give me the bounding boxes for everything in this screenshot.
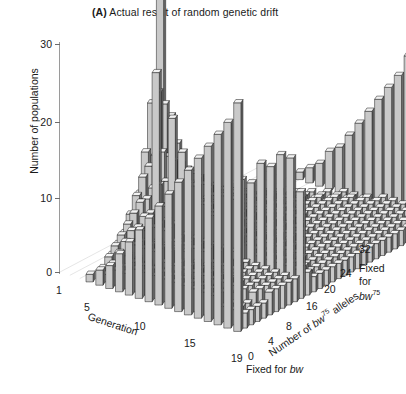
fixed-bw75-sup: 75: [372, 289, 380, 296]
fixed-for-bw75-annotation: Fixed for bw75: [359, 262, 385, 302]
allele-tick-20: 20: [324, 283, 336, 295]
generation-tick-1: 1: [56, 284, 62, 296]
fixed-bw-gene: bw: [290, 363, 303, 375]
figure-panel-a: (A) Actual result of random genetic drif…: [0, 0, 406, 394]
allele-tick-16: 16: [306, 300, 318, 312]
generation-tick-19: 19: [231, 352, 243, 364]
fixed-bw75-line1: Fixed: [359, 262, 385, 275]
generation-tick-15: 15: [184, 337, 196, 349]
allele-tick-24: 24: [340, 267, 352, 279]
allele-tick-0: 0: [248, 350, 254, 362]
fixed-bw75-gene: bw: [359, 290, 372, 302]
fixed-for-bw-annotation: Fixed for bw: [246, 363, 303, 375]
fixed-bw75-line2: for: [359, 275, 385, 288]
fixed-bw-text: Fixed for: [246, 363, 290, 375]
bar-group: [60, 0, 406, 331]
allele-tick-32: 32: [359, 243, 371, 255]
drift-3d-histogram: [0, 0, 406, 394]
